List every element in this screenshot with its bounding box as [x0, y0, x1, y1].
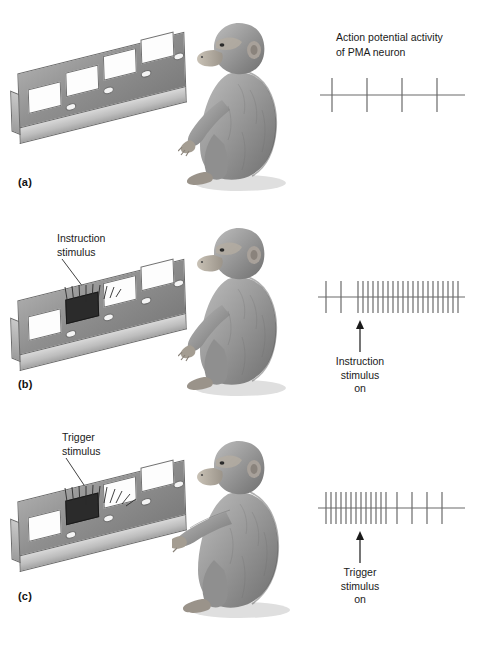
spike-raster-b: [310, 273, 475, 321]
caption-c-line1: Trigger: [300, 566, 420, 580]
event-arrow-b: [350, 318, 370, 354]
caption-c-line3: on: [300, 593, 420, 607]
panel-label-a: (a): [18, 176, 32, 188]
caption-c-line2: stimulus: [300, 580, 420, 594]
panel-a: (a): [0, 0, 478, 205]
stimulus-light-rays-c: [62, 482, 152, 516]
trace-title-a-line2: of PMA neuron: [336, 45, 405, 59]
caption-b-line3: on: [300, 382, 420, 396]
monkey-illustration-b: [178, 219, 298, 401]
monkey-illustration-c: [172, 432, 302, 624]
annotation-trigger-stimulus: Trigger stimulus: [62, 430, 101, 458]
caption-b-line2: stimulus: [300, 369, 420, 383]
monkey-illustration-a: [178, 14, 298, 196]
spike-raster-c: [310, 484, 475, 532]
spike-raster-a: [310, 70, 475, 120]
panel-c: (c) Trigger stimulus: [0, 410, 478, 647]
stimulus-light-rays-b: [62, 281, 132, 311]
annotation-instruction-stimulus: Instruction stimulus: [57, 231, 105, 259]
annotation-line1: Instruction: [57, 231, 105, 245]
caption-b-line1: Instruction: [300, 355, 420, 369]
panel-b: (b) Instruction stimulus: [0, 205, 478, 410]
caption-b: Instruction stimulus on: [300, 355, 420, 396]
event-arrow-c: [350, 529, 370, 565]
trace-title-a-line1: Action potential activity: [336, 30, 443, 44]
caption-c: Trigger stimulus on: [300, 566, 420, 607]
figure-root: (a): [0, 0, 478, 647]
annotation-c-line1: Trigger: [62, 430, 101, 444]
